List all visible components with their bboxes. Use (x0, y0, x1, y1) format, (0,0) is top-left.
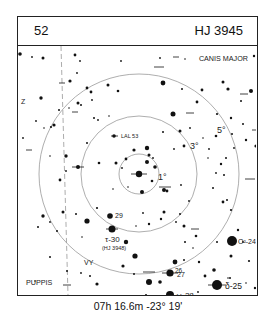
chart-header: 52 HJ 3945 (18, 17, 257, 46)
object-id: HJ 3945 (195, 23, 243, 38)
ring-label-1deg: 1° (158, 172, 167, 182)
star-label-z: Z (21, 98, 26, 105)
star-label-omicron2-24: O²-24 (238, 238, 256, 245)
target-star (131, 171, 147, 177)
star-label-delta-25: δ-25 (225, 281, 242, 291)
constellation-label-puppis: PUPPIS (26, 278, 53, 287)
star-tau-30 (106, 226, 118, 233)
star-29 (107, 213, 113, 219)
ring-label-3deg: 3° (190, 141, 199, 151)
constellation-label-canis-major: CANIS MAJOR (199, 54, 248, 63)
star-omega-28 (166, 291, 174, 295)
star-omicron2-24 (227, 236, 237, 246)
center-coordinates: 07h 16.6m -23° 19' (0, 300, 276, 312)
star-label-29: 29 (115, 212, 123, 219)
chart-number: 52 (34, 23, 48, 38)
star-label-tau-30: τ-30 (105, 235, 120, 244)
star-lal-53 (111, 134, 118, 138)
star-label-27: 27 (177, 271, 185, 278)
star-label-vy: VY (84, 259, 94, 266)
star-26 (173, 260, 178, 265)
star-delta-25 (208, 280, 226, 290)
star-label-lal-53: LAL 53 (121, 133, 138, 139)
chart-frame: 52 HJ 3945 (17, 16, 258, 296)
star-label-hj3948: (HJ 3948) (102, 245, 126, 251)
ring-label-5deg: 5° (217, 125, 226, 135)
field-stars-barred (26, 57, 256, 285)
star-map: CANIS MAJOR PUPPIS 1° 3° 5° LAL 53 29 τ-… (18, 46, 256, 295)
star-label-omega-28: ω-28 (176, 291, 194, 295)
